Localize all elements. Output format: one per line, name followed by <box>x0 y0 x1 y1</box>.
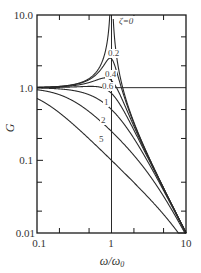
x-axis-title-sub: 0 <box>120 260 124 269</box>
x-tick-label-10: 10 <box>181 237 193 249</box>
y-tick-label-1: 1.0 <box>19 82 33 94</box>
resonance-chart: 10.0 1.0 0.1 0.01 0.1 1 10 G ω/ω0 ζ=0 0.… <box>0 0 201 273</box>
curve-label-5: 5 <box>99 134 104 144</box>
y-axis-title: G <box>3 123 17 132</box>
curve-label-1: 1 <box>104 97 109 107</box>
curve-label-0-4: 0.4 <box>105 69 117 79</box>
x-tick-label-0-1: 0.1 <box>32 237 46 249</box>
x-axis-title: ω/ω0 <box>100 254 124 269</box>
y-tick-label-0-1: 0.1 <box>19 154 33 166</box>
x-tick-label-1: 1 <box>108 237 114 249</box>
curve-label-0-2: 0.2 <box>108 48 119 58</box>
reference-lines <box>112 15 187 233</box>
curve-label-2: 2 <box>101 115 106 125</box>
y-tick-label-10: 10.0 <box>14 9 34 21</box>
curve-label-0-6: 0.6 <box>102 81 114 91</box>
x-axis-title-main: ω/ω <box>100 254 120 268</box>
curve-label-zeta-0: ζ=0 <box>119 16 134 26</box>
